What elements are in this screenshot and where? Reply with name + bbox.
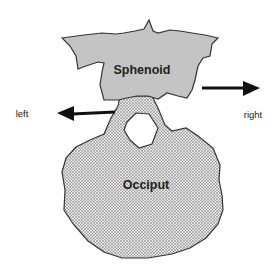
left-arrow	[57, 106, 115, 121]
sphenoid-bone	[62, 20, 218, 100]
right-arrow	[202, 81, 260, 96]
right-label: right	[244, 109, 263, 120]
sphenoid-occiput-diagram: Sphenoid Occiput left right	[0, 0, 274, 268]
sphenoid-label: Sphenoid	[114, 63, 171, 77]
left-label: left	[16, 108, 29, 119]
occiput-label: Occiput	[123, 178, 170, 192]
occiput-bone	[62, 96, 223, 258]
